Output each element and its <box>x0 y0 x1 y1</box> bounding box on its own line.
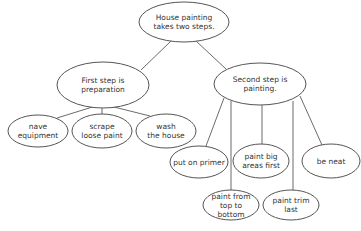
node-paint-label: Second step is painting. <box>217 63 303 105</box>
node-top-label: paint from top to bottom <box>206 190 256 220</box>
node-primer-label: put on primer <box>173 146 225 178</box>
node-equip-label: nave equipment <box>11 115 65 147</box>
node-root-label: House painting takes two steps. <box>142 2 226 42</box>
edge-paint-neat <box>300 96 322 145</box>
node-neat-label: be neat <box>305 144 357 178</box>
node-trim-label: paint trim last <box>266 190 316 220</box>
concept-map: House painting takes two steps.First ste… <box>0 0 361 231</box>
edge-paint-primer <box>206 98 224 146</box>
node-scrape-label: scrape loose paint <box>75 114 129 148</box>
node-wash-label: wash the house <box>139 114 193 148</box>
node-big-label: paint big areas first <box>236 144 286 178</box>
node-prep-label: First step is preparation <box>60 62 146 108</box>
